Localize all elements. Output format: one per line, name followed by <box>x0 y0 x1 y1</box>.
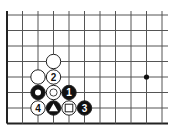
stone-body <box>31 70 45 84</box>
black-stone <box>46 101 60 115</box>
go-board: 2143 <box>0 0 173 134</box>
white-stone <box>31 70 45 84</box>
stones: 2143 <box>31 54 92 115</box>
star-points <box>144 74 149 79</box>
black-stone: 1 <box>62 85 76 99</box>
move-number: 1 <box>66 87 72 98</box>
white-stone <box>62 101 76 115</box>
black-stone: 3 <box>77 101 91 115</box>
white-stone: 2 <box>46 70 60 84</box>
stone-body <box>46 54 60 68</box>
circle-mark-icon <box>35 90 41 96</box>
white-stone <box>46 54 60 68</box>
move-number: 4 <box>35 103 41 114</box>
move-number: 3 <box>82 103 88 114</box>
stone-body <box>62 101 76 115</box>
star-point <box>144 74 149 79</box>
move-number: 2 <box>51 72 57 83</box>
stone-body <box>46 85 60 99</box>
black-stone <box>31 85 45 99</box>
white-stone: 4 <box>31 101 45 115</box>
white-stone <box>46 85 60 99</box>
